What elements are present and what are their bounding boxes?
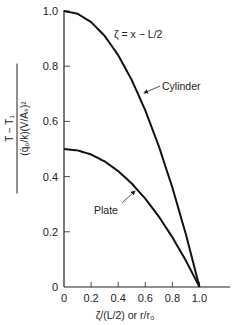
y-tick-label: 0.2: [43, 226, 58, 238]
y-tick-label: 0.6: [43, 115, 58, 127]
x-tick-label: 1.0: [192, 292, 207, 304]
y-tick-label: 0.8: [43, 60, 58, 72]
x-tick-label: 0.8: [165, 292, 180, 304]
x-ticks: 00.20.40.60.81.0: [61, 282, 207, 304]
y-tick-label: 1.0: [43, 5, 58, 17]
x-tick-label: 0: [61, 292, 67, 304]
y-tick-label: 0.4: [43, 171, 58, 183]
plate-curve: [64, 149, 200, 287]
cylinder-curve: [64, 11, 200, 287]
axes: [64, 10, 230, 287]
plate-label: Plate: [94, 204, 118, 216]
x-axis-label: ζ/(L/2) or r/r₀: [96, 309, 155, 321]
cylinder-label: Cylinder: [162, 80, 201, 92]
plate-arrow: [122, 191, 135, 203]
chart: 00.20.40.60.81.0 00.20.40.60.81.0 ζ = x …: [0, 0, 237, 325]
x-tick-label: 0.2: [83, 292, 98, 304]
y-tick-label: 0: [52, 281, 58, 293]
x-tick-label: 0.6: [138, 292, 153, 304]
x-tick-label: 0.4: [111, 292, 126, 304]
zeta-definition-annotation: ζ = x − L/2: [114, 28, 163, 40]
cylinder-arrow: [144, 86, 160, 93]
series: [64, 11, 200, 287]
